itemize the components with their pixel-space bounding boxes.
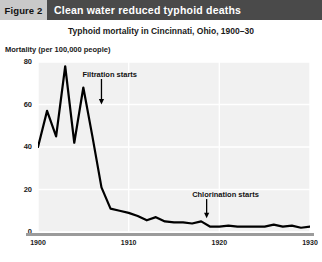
annotation-label-chlorination: Chlorination starts [192,190,259,199]
chart-svg [38,62,310,232]
x-axis-tick-label: 1910 [109,239,149,246]
annotation-arrow-head-filtration [99,99,104,105]
figure-header: Figure 2 Clean water reduced typhoid dea… [0,0,322,20]
figure-root: Figure 2 Clean water reduced typhoid dea… [0,0,322,262]
x-axis-rule [26,233,314,236]
plot-area [38,62,310,232]
figure-number-tag: Figure 2 [0,0,47,20]
x-axis-tick-label: 1900 [18,239,58,246]
y-axis-tick-label: 60 [6,100,32,109]
x-axis-tick-label: 1920 [199,239,239,246]
figure-banner-title: Clean water reduced typhoid deaths [47,0,322,20]
chart-title: Typhoid mortality in Cincinnati, Ohio, 1… [0,26,322,36]
x-axis-tick-label: 1930 [290,239,322,246]
annotation-label-filtration: Filtration starts [82,70,137,79]
y-axis-tick-label: 80 [6,57,32,66]
y-axis-tick-label: 40 [6,142,32,151]
annotation-arrow-head-chlorination [204,213,209,219]
y-axis-tick-label: 20 [6,185,32,194]
y-axis-label: Mortality (per 100,000 people) [5,45,110,54]
